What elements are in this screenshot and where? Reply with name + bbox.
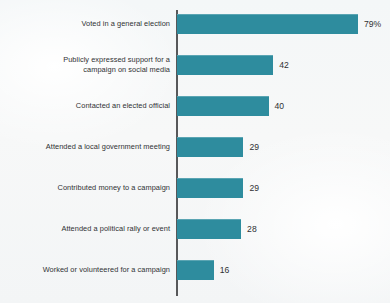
bar-rows-container: Voted in a general election79%Publicly e… [0,0,390,303]
bar [177,96,269,116]
bar-chart: Voted in a general election79%Publicly e… [0,0,390,303]
bar-row: Voted in a general election79% [0,4,390,45]
bar-row: Attended a local government meeting29 [0,127,390,168]
category-label: Worked or volunteered for a campaign [20,265,170,275]
category-label: Publicly expressed support for a campaig… [20,55,170,74]
bar [177,137,243,157]
bar-value-label: 29 [249,183,259,193]
bar-value-label: 29 [249,142,259,152]
bar-row: Contacted an elected official40 [0,86,390,127]
bar-value-label: 42 [279,60,289,70]
bar [177,260,214,280]
bar [177,14,358,34]
category-label: Contributed money to a campaign [20,183,170,193]
category-label: Attended a local government meeting [20,142,170,152]
bar-value-label: 79% [364,19,381,29]
category-label: Attended a political rally or event [20,224,170,234]
bar [177,219,241,239]
bar [177,178,243,198]
bar-row: Attended a political rally or event28 [0,209,390,250]
bar-value-label: 28 [247,224,257,234]
bar-row: Contributed money to a campaign29 [0,168,390,209]
bar-value-label: 16 [220,265,230,275]
bar-row: Worked or volunteered for a campaign16 [0,250,390,291]
bar [177,55,273,75]
bar-row: Publicly expressed support for a campaig… [0,45,390,86]
category-label: Voted in a general election [20,19,170,29]
bar-value-label: 40 [275,101,285,111]
category-label: Contacted an elected official [20,101,170,111]
